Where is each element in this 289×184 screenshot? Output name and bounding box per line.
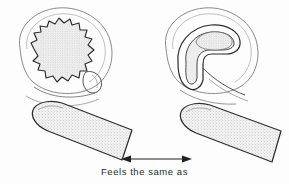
- right-hook-trailing-edge-2: [209, 79, 248, 101]
- figure-illustration: [0, 0, 289, 184]
- left-contact-finger-tip: [83, 71, 102, 93]
- left-bumpy-object: [31, 18, 94, 82]
- feels-the-same-as-arrow: [121, 155, 192, 162]
- right-panel-group: [165, 8, 281, 162]
- arrow-head-right: [182, 155, 192, 162]
- right-hook-trailing-edge: [203, 68, 245, 95]
- tactile-perception-figure: Feels the same as: [0, 0, 289, 184]
- left-finger-shape: [32, 101, 132, 160]
- figure-caption: Feels the same as: [0, 166, 289, 177]
- left-panel-group: [19, 8, 132, 160]
- right-finger-shape: [180, 103, 281, 162]
